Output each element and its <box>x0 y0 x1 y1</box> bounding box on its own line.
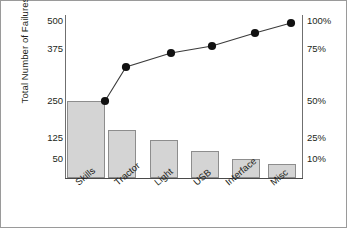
y-axis-left-ticks: 500 375 250 125 50 <box>29 1 63 228</box>
y-tick-50: 50 <box>52 153 63 164</box>
y2-tick-100pct: 100% <box>307 15 331 26</box>
y2-tick-10pct: 10% <box>307 153 326 164</box>
y-tick-500: 500 <box>47 15 63 26</box>
cumulative-line-layer <box>65 15 303 179</box>
marker-misc[interactable] <box>287 19 295 27</box>
marker-interface[interactable] <box>251 29 259 37</box>
y2-tick-50pct: 50% <box>307 95 326 106</box>
y-axis-right-ticks: 100% 75% 50% 25% 10% <box>307 1 341 228</box>
marker-usb[interactable] <box>208 42 216 50</box>
marker-light[interactable] <box>167 49 175 57</box>
y-tick-125: 125 <box>47 132 63 143</box>
y2-tick-25pct: 25% <box>307 132 326 143</box>
marker-tractor[interactable] <box>122 63 130 71</box>
marker-skills[interactable] <box>101 97 109 105</box>
y2-tick-75pct: 75% <box>307 43 326 54</box>
cumulative-line <box>105 23 291 101</box>
y-axis-title: Total Number of Failures <box>19 0 30 126</box>
plot-area <box>65 15 303 179</box>
x-axis-category-labels: Skills Tractor Light USB Interface Misc <box>65 179 303 228</box>
y-tick-250: 250 <box>47 95 63 106</box>
pareto-chart-figure: Total Number of Failures 500 375 250 125… <box>0 0 347 228</box>
y-tick-375: 375 <box>47 43 63 54</box>
